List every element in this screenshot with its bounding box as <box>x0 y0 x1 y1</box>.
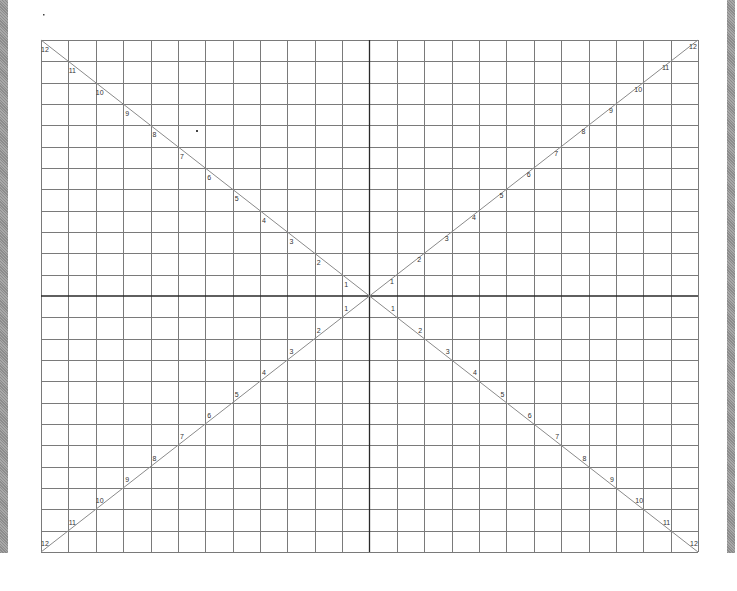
diagonal-label-upper-right: 9 <box>609 107 613 114</box>
diagonal-label-upper-left: 7 <box>180 153 184 160</box>
grid-diagram: 1234567891011121234567891011121234567891… <box>0 0 737 591</box>
diagonal-label-lower-left: 3 <box>289 348 293 355</box>
diagonal-label-upper-right: 12 <box>689 43 697 50</box>
diagonal-label-upper-left: 3 <box>289 238 293 245</box>
diagonal-label-lower-left: 5 <box>235 391 239 398</box>
diagonal-label-lower-left: 10 <box>96 497 104 504</box>
diagonal-label-lower-right: 7 <box>555 433 559 440</box>
diagonal-label-lower-right: 9 <box>610 476 614 483</box>
diagonal-label-lower-left: 2 <box>317 327 321 334</box>
diagonal-label-upper-left: 6 <box>207 174 211 181</box>
diagonal-label-upper-right: 4 <box>472 214 476 221</box>
diagonal-label-upper-left: 9 <box>125 110 129 117</box>
diagonal-label-upper-right: 7 <box>554 150 558 157</box>
diagonal-label-lower-left: 7 <box>180 433 184 440</box>
diagonal-label-lower-right: 4 <box>473 369 477 376</box>
diagonal-label-lower-right: 12 <box>690 540 698 547</box>
diagonal-label-lower-left: 12 <box>41 540 49 547</box>
diagonal-label-lower-left: 9 <box>125 476 129 483</box>
diagonal-label-lower-left: 4 <box>262 369 266 376</box>
diagonal-label-upper-right: 10 <box>634 86 642 93</box>
diagonal-label-upper-right: 8 <box>582 128 586 135</box>
stray-marks <box>43 14 198 132</box>
diagonal-label-upper-right: 6 <box>527 171 531 178</box>
diagonal-label-lower-right: 8 <box>583 455 587 462</box>
diagonal-label-lower-right: 11 <box>663 519 670 526</box>
speck-mark <box>43 14 45 16</box>
diagonal-label-lower-right: 6 <box>528 412 532 419</box>
diagonal-label-upper-left: 10 <box>96 89 104 96</box>
diagonal-label-upper-left: 12 <box>41 46 49 53</box>
diagonal-label-lower-right: 3 <box>446 348 450 355</box>
diagonal-label-upper-left: 11 <box>69 67 76 74</box>
diagonal-label-lower-left: 8 <box>153 455 157 462</box>
diagonal-label-lower-right: 10 <box>635 497 643 504</box>
diagonal-label-lower-right: 1 <box>391 305 395 312</box>
diagonal-label-lower-left: 6 <box>207 412 211 419</box>
diagonal-label-lower-right: 2 <box>418 327 422 334</box>
diagonal-label-upper-right: 11 <box>662 64 669 71</box>
diagonal-label-upper-right: 5 <box>499 192 503 199</box>
diagonal-label-upper-left: 2 <box>317 259 321 266</box>
diagonal-label-lower-left: 1 <box>344 305 348 312</box>
diagonal-label-upper-left: 8 <box>153 131 157 138</box>
diagonal-label-upper-left: 5 <box>235 195 239 202</box>
diagonal-label-upper-left: 1 <box>344 281 348 288</box>
speck-mark <box>196 130 198 132</box>
diagonal-label-upper-left: 4 <box>262 217 266 224</box>
diagonal-label-upper-right: 3 <box>445 235 449 242</box>
diagonal-label-lower-right: 5 <box>500 391 504 398</box>
diagonal-label-lower-left: 11 <box>69 519 76 526</box>
diagonal-label-upper-right: 1 <box>390 278 394 285</box>
diagonal-label-upper-right: 2 <box>417 256 421 263</box>
